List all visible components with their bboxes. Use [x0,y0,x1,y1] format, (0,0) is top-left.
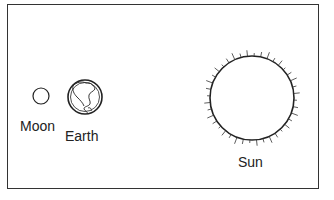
moon-icon [33,88,49,104]
sun-label: Sun [238,154,263,170]
sun-icon [204,50,299,145]
diagram-canvas [0,0,334,200]
earth-icon [68,80,102,114]
earth-label: Earth [65,128,98,144]
moon-label: Moon [20,118,55,134]
